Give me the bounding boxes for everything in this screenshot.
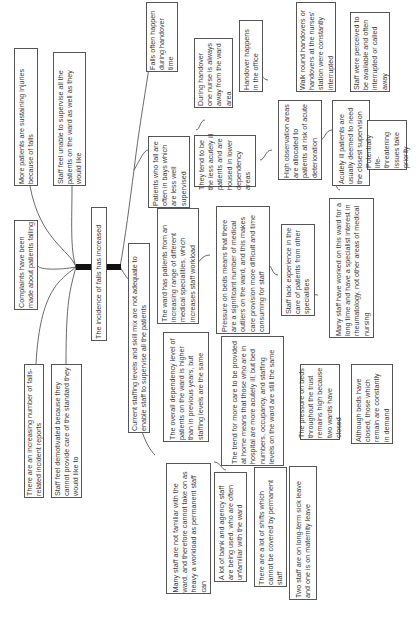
- cause-rheumatology: Many staff have worked on this ward for …: [329, 198, 374, 338]
- cause-life-threatening: Potentially life-threatening issues take…: [367, 120, 407, 170]
- cause-specialities: The ward has patients from an increasing…: [157, 208, 199, 324]
- cause-care-at-home: The trend for more care to be provided a…: [221, 336, 284, 466]
- cause-staffing-levels: Current staffing levels and skill mix ar…: [128, 243, 150, 433]
- cause-handover-office: Handover happens in the office: [239, 20, 263, 92]
- cause-sick-leave: Two staff are on long-term sick leave an…: [289, 466, 317, 600]
- cause-shifts-uncovered: There are a lot of shifts which cannot b…: [254, 467, 287, 587]
- effect-complaints: Complaints have been made about patients…: [14, 220, 38, 310]
- cause-walk-round-handovers: Walk round handovers or handovers at the…: [296, 2, 336, 92]
- cause-falls-handover: Falls often happen during handover time: [146, 2, 178, 72]
- cause-lack-experience: Staff lack experience in the care of pat…: [281, 224, 315, 316]
- cause-bays-less-supervised: Patients who fall are often in bays whic…: [148, 136, 190, 208]
- effect-demotivated: Staff feel demotivated because they cann…: [51, 364, 82, 498]
- cause-pressure-outliers: Pressure on beds means that there are a …: [216, 206, 270, 334]
- root-problem: The incidence of falls has increased: [91, 207, 107, 341]
- cause-dependency-level: The overall dependency level of patients…: [163, 332, 209, 442]
- effect-injuries: More patients are sustaining injuries be…: [14, 48, 38, 186]
- cause-pressure-trust: The pressure on beds throughout the trus…: [300, 364, 340, 440]
- effect-incident-reports: There are an increasing number of falls-…: [24, 364, 44, 498]
- effect-unable-supervise: Staff feel unable to supervise all the p…: [53, 52, 86, 186]
- cause-high-observation: High observation areas are allocated to …: [278, 100, 322, 180]
- cause-beds-closed: Although beds have closed, those which r…: [351, 364, 393, 444]
- cause-perceived-available: Staff were perceived to be available and…: [350, 12, 390, 92]
- cause-less-acutely-ill: They tend to be the less acutely ill pat…: [194, 135, 256, 187]
- cause-handover-nurse-away: During handover one nurse is always away…: [194, 38, 233, 108]
- cause-not-familiar: Many staff are not familiar with the war…: [166, 463, 211, 594]
- cause-bank-agency: A lot of bank and agency staff are being…: [214, 472, 247, 582]
- fishbone-diagram: More patients are sustaining injuries be…: [0, 0, 420, 631]
